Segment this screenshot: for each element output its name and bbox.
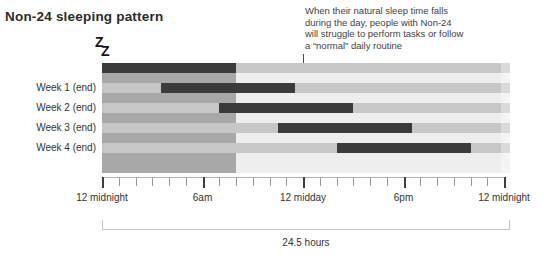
annotation-line: will struggle to perform tasks or follow	[305, 28, 485, 40]
row-label: Week 3 (end)	[0, 122, 96, 134]
axis-label-12-midnight: 12 midnight	[464, 192, 544, 203]
row-label: Week 1 (end)	[0, 82, 96, 94]
axis-tick-hour-12	[303, 177, 305, 188]
axis-tick-hour-10	[270, 177, 271, 186]
annotation-line: When their natural sleep time falls	[305, 5, 485, 17]
annotation-line: during the day, people with Non-24	[305, 17, 485, 29]
axis-tick-hour-4	[169, 177, 170, 186]
axis-tick-hour-14	[337, 177, 338, 186]
row-label: Week 4 (end)	[0, 142, 96, 154]
sleep-zzz-icon: Z Z	[94, 34, 116, 60]
duration-label: 24.5 hours	[102, 237, 510, 248]
axis-label-12-midnight: 12 midnight	[62, 192, 142, 203]
axis-tick-hour-16	[370, 177, 371, 186]
sleep-bar-week-2	[219, 103, 353, 113]
axis-tick-hour-17	[387, 177, 388, 186]
axis-tick-hour-24	[504, 177, 506, 188]
page-title: Non-24 sleeping pattern	[5, 9, 163, 24]
axis-tick-hour-5	[186, 177, 187, 186]
plot-right-fade	[501, 63, 510, 173]
axis-tick-hour-13	[320, 177, 321, 186]
sleep-bar-week-3	[278, 123, 412, 133]
axis-label-12-midday: 12 midday	[263, 192, 343, 203]
axis-tick-hour-0	[102, 177, 104, 188]
sleep-bar-week-1	[161, 83, 295, 93]
axis-tick-hour-18	[404, 177, 406, 188]
sleep-pattern-plot	[102, 63, 510, 173]
axis-tick-hour-21	[454, 177, 455, 186]
axis-tick-hour-19	[420, 177, 421, 186]
annotation-line: a “normal” daily routine	[305, 40, 485, 52]
axis-tick-hour-7	[219, 177, 220, 186]
axis-tick-hour-15	[353, 177, 354, 186]
axis-tick-hour-20	[437, 177, 438, 186]
duration-bracket	[102, 220, 510, 230]
row-label: Week 2 (end)	[0, 102, 96, 114]
axis-tick-hour-23	[487, 177, 488, 186]
annotation-text: When their natural sleep time falls duri…	[305, 5, 485, 51]
axis-label-6am: 6am	[163, 192, 243, 203]
axis-tick-hour-6	[203, 177, 205, 188]
axis-tick-hour-9	[253, 177, 254, 186]
axis-tick-hour-8	[236, 177, 237, 186]
axis-tick-hour-22	[471, 177, 472, 186]
sleep-bar-baseline	[102, 63, 236, 73]
non24-infographic: Non-24 sleeping pattern When their natur…	[0, 0, 544, 262]
axis-label-6pm: 6pm	[364, 192, 444, 203]
sleep-bar-week-4	[337, 143, 471, 153]
axis-tick-hour-11	[286, 177, 287, 186]
axis-tick-hour-2	[136, 177, 137, 186]
axis-tick-hour-3	[152, 177, 153, 186]
night-region	[102, 63, 236, 173]
zzz-glyph: Z	[101, 43, 110, 59]
axis-tick-hour-1	[119, 177, 120, 186]
